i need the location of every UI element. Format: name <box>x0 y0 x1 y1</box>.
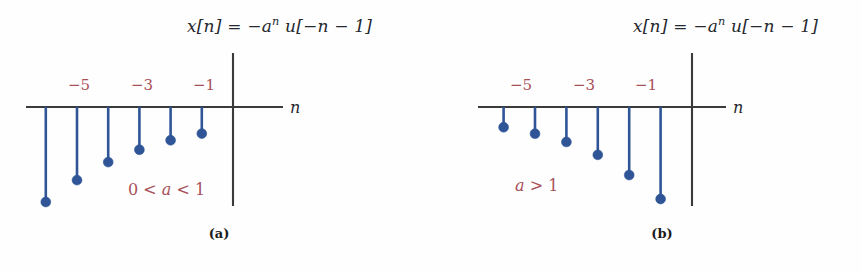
stem-marker-a-n-2 <box>166 135 176 145</box>
condition-label-a: 0 < a < 1 <box>128 180 205 199</box>
tick-label-minus5-a: −5 <box>60 76 98 94</box>
panel-a: x[n] = −an u[−n − 1] −5 −3 −1 n 0 < a < … <box>0 0 430 273</box>
tick-label-minus5-b: −5 <box>502 76 540 94</box>
condition-label-b: a > 1 <box>515 176 558 195</box>
tick-label-minus3-b: −3 <box>565 76 603 94</box>
stem-marker-b-n-3 <box>593 150 603 160</box>
axis-label-n-a: n <box>290 98 300 117</box>
panel-b: x[n] = −an u[−n − 1] −5 −3 −1 n a > 1 (b… <box>430 0 861 273</box>
figure-root: x[n] = −an u[−n − 1] −5 −3 −1 n 0 < a < … <box>0 0 861 273</box>
stem-marker-b-n-2 <box>624 170 634 180</box>
tick-label-minus3-a: −3 <box>123 76 161 94</box>
stem-marker-a-n-4 <box>103 157 113 167</box>
tick-label-minus1-a: −1 <box>185 76 223 94</box>
stem-marker-a-n-5 <box>72 175 82 185</box>
equation-b: x[n] = −an u[−n − 1] <box>633 16 818 36</box>
stem-marker-a-n-3 <box>135 145 145 155</box>
tick-label-minus1-b: −1 <box>627 76 665 94</box>
caption-b: (b) <box>642 226 682 241</box>
stem-marker-a-n-6 <box>41 197 51 207</box>
stem-marker-b-n-6 <box>499 122 509 132</box>
stem-marker-b-n-5 <box>530 129 540 139</box>
stem-marker-b-n-4 <box>562 137 572 147</box>
caption-a: (a) <box>199 226 239 241</box>
stem-marker-b-n-1 <box>656 194 666 204</box>
equation-a: x[n] = −an u[−n − 1] <box>187 16 372 36</box>
stem-marker-a-n-1 <box>197 129 207 139</box>
axis-label-n-b: n <box>733 98 743 117</box>
